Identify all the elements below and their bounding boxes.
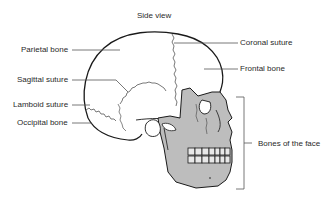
label-sagittal-suture: Sagittal suture: [17, 75, 68, 84]
label-occipital-bone: Occipital bone: [17, 118, 68, 127]
label-coronal-suture: Coronal suture: [240, 38, 292, 47]
lamboid-suture: [86, 108, 116, 121]
orbit: [199, 100, 211, 114]
label-lamboid-suture: Lamboid suture: [13, 100, 68, 109]
label-frontal-bone: Frontal bone: [240, 64, 285, 73]
face-bones: [158, 88, 232, 188]
label-bones-of-face: Bones of the face: [258, 139, 320, 148]
label-parietal-bone: Parietal bone: [21, 45, 68, 54]
coronal-suture: [172, 34, 177, 106]
sagittal-suture: [120, 82, 166, 104]
diagram-title: Side view: [137, 11, 171, 20]
